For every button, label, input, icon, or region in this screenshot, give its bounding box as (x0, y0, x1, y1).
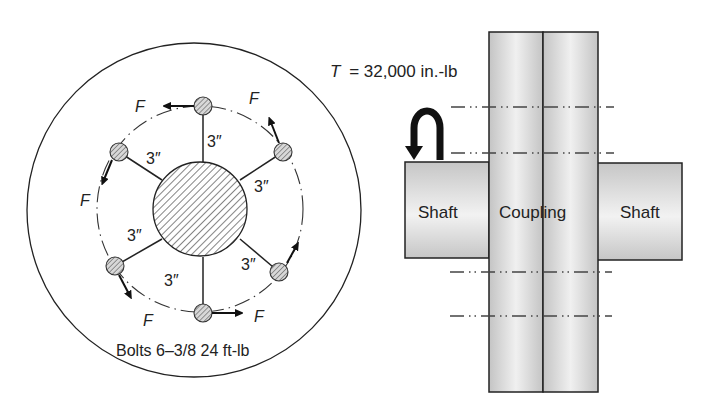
bolt-upper-left (110, 143, 128, 161)
force-label: F (249, 90, 260, 107)
radius-label: 3″ (254, 178, 269, 195)
right-shaft-label: Shaft (620, 203, 660, 222)
end-view: F F F F F 3″ 3″ 3″ 3″ 3″ 3″ Bolts 6–3/8 … (27, 43, 361, 377)
radius-label: 3″ (127, 227, 142, 244)
force-label: F (80, 192, 91, 209)
left-shaft-label: Shaft (418, 203, 458, 222)
force-label: F (254, 308, 265, 325)
bolt-top (194, 97, 212, 115)
coupling-diagram: F F F F F 3″ 3″ 3″ 3″ 3″ 3″ Bolts 6–3/8 … (0, 0, 707, 411)
bolt-bottom (194, 304, 212, 322)
bolt-spec-label: Bolts 6–3/8 24 ft-lb (116, 342, 250, 359)
radius-label: 3″ (241, 256, 256, 273)
force-arrow-icon (287, 245, 297, 263)
bolt-lower-left (106, 257, 124, 275)
torque-arrow-icon (405, 111, 440, 160)
radius-label: 3″ (207, 133, 222, 150)
bolt-lower-right (270, 263, 288, 281)
torque-label: T = 32,000 in.-lb (330, 62, 457, 81)
radius-label: 3″ (146, 150, 161, 167)
force-arrow-icon (119, 275, 130, 296)
bolt-upper-right (274, 143, 292, 161)
force-label: F (143, 312, 154, 329)
side-view: T = 32,000 in.-lb Shaft Coupling Shaft (330, 32, 682, 392)
force-label: F (135, 98, 146, 115)
coupling-label: Coupling (499, 203, 566, 222)
force-arrow-icon (270, 120, 279, 143)
shaft-section (153, 162, 247, 256)
radius-label: 3″ (164, 272, 179, 289)
